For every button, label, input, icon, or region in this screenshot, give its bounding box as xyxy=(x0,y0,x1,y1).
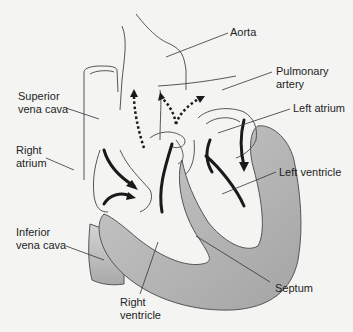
label-aorta: Aorta xyxy=(230,26,256,39)
label-superior-vena-cava: Superior vena cava xyxy=(18,90,68,116)
label-septum: Septum xyxy=(275,282,313,295)
label-pulmonary-artery: Pulmonary artery xyxy=(276,65,329,91)
dotted-arrow-heads xyxy=(130,89,205,103)
valve-shapes xyxy=(150,132,194,174)
right-atrium-shape xyxy=(93,150,151,212)
heart-diagram: Aorta Pulmonary artery Left atrium Super… xyxy=(0,0,353,332)
label-right-atrium: Right atrium xyxy=(16,144,47,170)
label-left-atrium: Left atrium xyxy=(293,102,345,115)
label-right-ventricle: Right ventricle xyxy=(120,296,161,322)
label-left-ventricle: Left ventricle xyxy=(279,166,341,179)
ventricle-muscle-shape xyxy=(99,126,301,310)
solid-flow-arrows xyxy=(104,120,244,212)
label-inferior-vena-cava: Inferior vena cava xyxy=(16,226,66,252)
superior-vena-cava-shape xyxy=(84,66,118,180)
aorta-shape xyxy=(120,14,186,110)
dotted-outflow-arrows xyxy=(134,96,200,148)
